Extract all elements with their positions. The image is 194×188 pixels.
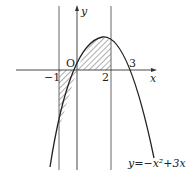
y-axis-arrow-icon [75,5,79,11]
function-label: y=−x²+3x [127,157,186,170]
origin-label: O [66,57,75,70]
y-axis-label: y [80,5,88,18]
tick-label-2: 2 [102,71,109,84]
x-axis-label: x [150,72,157,85]
tick-label-3: 3 [129,57,136,70]
shaded-region-left [59,70,77,129]
tick-label-neg1: −1 [44,71,60,84]
parabola-diagram: y x O −1 2 3 y=−x²+3x [0,0,194,188]
